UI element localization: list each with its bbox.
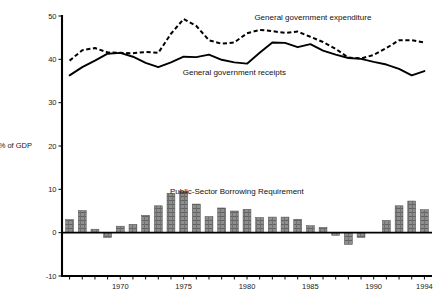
psbr-bar <box>205 217 213 233</box>
psbr-bar <box>192 204 200 233</box>
psbr-bar <box>420 210 428 233</box>
psbr-bar <box>230 211 238 233</box>
psbr-bar <box>129 224 137 232</box>
x-tick-label: 1975 <box>175 282 192 291</box>
psbr-bar <box>395 206 403 233</box>
series-annotation: General government expenditure <box>254 13 372 22</box>
y-axis-title: % of GDP <box>0 141 32 150</box>
y-tick-label: 30 <box>48 98 56 107</box>
psbr-bar <box>281 217 289 233</box>
y-tick-label: 10 <box>48 185 56 194</box>
x-tick-label: 1990 <box>365 282 382 291</box>
psbr-bar <box>78 211 86 233</box>
psbr-bar <box>66 220 74 233</box>
y-tick-label: 0 <box>52 228 56 237</box>
psbr-bar <box>180 192 188 233</box>
y-tick-label: 40 <box>48 55 56 64</box>
x-tick-label: 1970 <box>112 282 129 291</box>
chart-container: 50403020100-10 197019751980198519901994 … <box>0 0 443 302</box>
chart-background <box>0 0 443 302</box>
psbr-bar <box>154 206 162 233</box>
psbr-bar <box>382 221 390 233</box>
psbr-bar <box>344 233 352 245</box>
x-tick-label: 1985 <box>302 282 319 291</box>
x-tick-label: 1980 <box>239 282 256 291</box>
psbr-bar <box>142 215 150 232</box>
y-tick-label: 20 <box>48 142 56 151</box>
psbr-bar <box>218 208 226 233</box>
psbr-bar <box>167 193 175 232</box>
x-tick-label: 1994 <box>416 282 433 291</box>
series-annotation: Public-Sector Borrowing Requirement <box>170 187 305 196</box>
government-finances-chart: 50403020100-10 197019751980198519901994 … <box>0 0 443 302</box>
psbr-bar <box>116 226 124 233</box>
psbr-bar <box>268 217 276 233</box>
series-annotation: General government receipts <box>183 68 286 77</box>
y-tick-label: -10 <box>46 272 57 281</box>
psbr-bar <box>306 226 314 233</box>
psbr-bar <box>243 209 251 232</box>
psbr-bar <box>408 201 416 233</box>
psbr-bar <box>294 219 302 232</box>
psbr-bar <box>256 218 264 233</box>
y-tick-label: 50 <box>48 12 56 21</box>
